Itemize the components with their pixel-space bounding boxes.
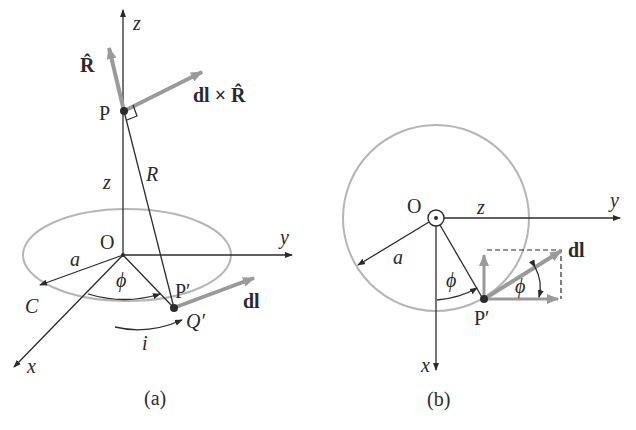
loop-c-label: C [25, 295, 39, 317]
dl-cross-r-label: dl × R̂ [193, 83, 246, 106]
r-hat-label: R̂ [80, 53, 95, 76]
z-out-label: z [476, 196, 485, 218]
panel-a-caption: (a) [144, 387, 166, 410]
phi-label: ϕ [446, 269, 456, 292]
dl-label: dl [568, 239, 585, 261]
point-o [121, 253, 125, 257]
r-hat-vector [109, 48, 124, 111]
origin-label: O [407, 195, 421, 217]
distance-r-label: R [145, 163, 158, 185]
panel-b-caption: (b) [427, 388, 450, 411]
dl-label: dl [243, 290, 260, 312]
z-axis-label: z [132, 12, 141, 34]
origin-label: O [100, 231, 114, 253]
point-p [120, 107, 128, 115]
point-p-label: P [99, 102, 110, 124]
current-arrow [115, 320, 182, 330]
figure-canvas: z R̂ dl × R̂ P R z O y a ϕ P′ C dl Q′ i … [0, 0, 636, 430]
point-p-prime-label: P′ [175, 280, 191, 302]
point-p-prime [170, 304, 178, 312]
z-out-of-page-dot [434, 216, 438, 220]
radius-label: a [393, 246, 403, 268]
phi-arc [437, 288, 477, 300]
height-z-label: z [102, 171, 111, 193]
point-p-prime-label: P′ [474, 307, 490, 329]
phi-label: ϕ [116, 269, 126, 292]
point-q-prime-label: Q′ [186, 310, 205, 332]
phi-dl-arc [535, 267, 540, 297]
radius-label: a [70, 248, 80, 270]
point-p-prime [480, 295, 488, 303]
x-axis-label: x [420, 354, 430, 376]
radius-line [40, 255, 123, 285]
panel-a: z R̂ dl × R̂ P R z O y a ϕ P′ C dl Q′ i … [14, 10, 292, 410]
dl-cross-r-vector [124, 72, 202, 111]
phi-dl-label: ϕ [515, 275, 525, 298]
y-axis-label: y [278, 226, 289, 249]
current-label: i [142, 332, 148, 354]
x-axis-label: x [26, 355, 36, 377]
panel-b: O z y dl a ϕ ϕ P′ x (b) [343, 125, 620, 411]
y-axis-label: y [608, 189, 619, 212]
